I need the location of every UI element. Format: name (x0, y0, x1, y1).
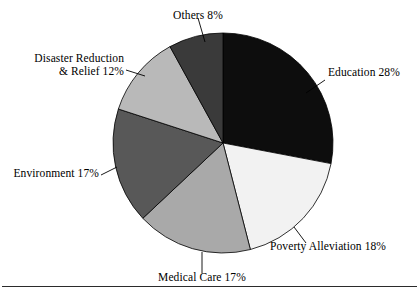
pie-slices-group (113, 33, 333, 253)
slice-label-disaster-reduction-line2: & Relief 12% (0, 65, 124, 78)
slice-label-medical-care: Medical Care 17% (151, 271, 253, 284)
slice-label-education: Education 28% (328, 66, 400, 79)
pie-chart-canvas (0, 0, 419, 300)
bottom-divider-rule (2, 286, 417, 287)
slice-label-education-text: Education 28% (328, 66, 400, 78)
slice-label-poverty-alleviation: Poverty Alleviation 18% (270, 240, 386, 253)
slice-label-medical-care-text: Medical Care 17% (158, 271, 246, 283)
slice-label-others-text: Others 8% (173, 9, 223, 21)
pie-chart-figure: Education 28% Poverty Alleviation 18% Me… (0, 0, 419, 300)
slice-label-environment-text: Environment 17% (14, 167, 100, 179)
leader-line-environment (101, 167, 117, 175)
pie-slice-education[interactable] (223, 33, 333, 164)
slice-label-disaster-reduction: Disaster Reduction & Relief 12% (0, 52, 124, 77)
slice-label-environment: Environment 17% (0, 167, 99, 180)
slice-label-others: Others 8% (148, 9, 248, 22)
slice-label-poverty-alleviation-text: Poverty Alleviation 18% (270, 240, 386, 252)
slice-label-disaster-reduction-line1: Disaster Reduction (0, 52, 124, 65)
